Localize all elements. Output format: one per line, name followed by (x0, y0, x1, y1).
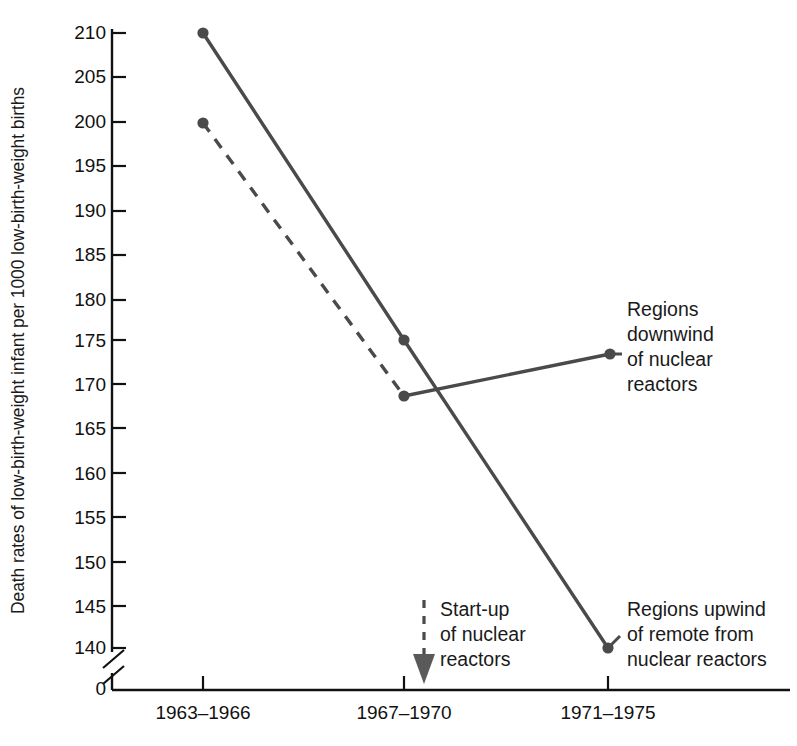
plot-area (0, 0, 797, 746)
data-point-downwind-2 (398, 390, 409, 401)
upwind-label-leader (608, 636, 620, 648)
series-downwind-solid-segment (404, 354, 610, 396)
startup-arrow-head (413, 654, 435, 684)
series-downwind-dashed-segment (203, 123, 404, 396)
axis-break-slash-upper (103, 650, 124, 668)
axis-break-slash-lower (103, 666, 124, 684)
x-tick-marks (203, 676, 608, 690)
data-point-upwind-1 (197, 27, 208, 38)
y-tick-marks (112, 33, 126, 648)
data-point-upwind-2 (398, 334, 409, 345)
chart-figure: Death rates of low-birth-weight infant p… (0, 0, 797, 746)
data-point-downwind-1 (197, 117, 208, 128)
